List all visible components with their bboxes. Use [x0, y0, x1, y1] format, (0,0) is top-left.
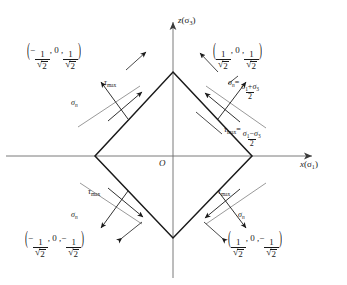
radical-body: 2 — [41, 61, 48, 71]
radical-body: 2 — [250, 61, 257, 71]
axis-label-z: z(σ3) — [178, 16, 195, 26]
coord-label-bottom-left: (− 1 √2 , 0 ,− 1 √2 ) — [25, 234, 84, 259]
coord-x-den: √2 — [35, 59, 50, 71]
coord-label-top-left: (− 1 √2 , 0 , 1 √2 ) — [27, 46, 81, 71]
tau-subscript: max — [227, 129, 236, 135]
coord-x-den: √2 — [33, 247, 48, 259]
radical-body: 2 — [270, 249, 277, 259]
coord-label-bottom-right: ( 1 √2 , 0 ,− 1 √2 ) — [228, 234, 282, 259]
coord-z-den: √2 — [66, 247, 81, 259]
sigma-n-denominator: 2 — [246, 92, 254, 101]
paren-close: ) — [81, 230, 84, 248]
sigma-subscript: n — [242, 214, 245, 220]
tau-max-denominator: 2 — [248, 139, 256, 148]
coord-x-fraction: 1 √2 — [231, 238, 246, 259]
coord-z-den: √2 — [264, 247, 279, 259]
coord-x-num: 1 — [234, 238, 243, 247]
plane-marker-lower-right — [205, 183, 266, 228]
radical-z: √2 — [68, 248, 79, 259]
coord-separator: , 0 , — [231, 45, 245, 55]
coord-x-num: 1 — [36, 238, 45, 247]
coord-x-num: 1 — [219, 50, 228, 59]
axis-label-x-open: (σ — [304, 159, 312, 169]
coord-z-den: √2 — [63, 59, 78, 71]
sigma-n-fraction: σ1+σ3 2 — [239, 83, 261, 101]
leader-lines — [122, 52, 222, 238]
coord-z-num: 1 — [69, 238, 78, 247]
origin-label: O — [159, 159, 166, 168]
paren-close: ) — [78, 42, 81, 60]
paren-open: ( — [27, 42, 30, 60]
sigma-n-label-upper-left: σn — [71, 99, 78, 108]
tau-subscript: max — [107, 82, 116, 88]
paren-open: ( — [25, 230, 28, 248]
radical-z: √2 — [246, 60, 257, 71]
coord-x-fraction: 1 √2 — [35, 50, 50, 71]
tau-max-numerator: σ1−σ3 — [241, 130, 263, 139]
sigma-3-sub: 3 — [256, 85, 259, 91]
coord-x-fraction: 1 √2 — [33, 238, 48, 259]
axis-label-x-close: ) — [315, 159, 318, 169]
coord-separator: , 0 , — [50, 45, 64, 55]
radical-body: 2 — [73, 249, 80, 259]
tau-max-fraction: σ1−σ3 2 — [241, 130, 263, 148]
coord-z-den: √2 — [244, 59, 259, 71]
coord-z-fraction: 1 √2 — [244, 50, 259, 71]
tau-max-label-upper-left: τmax — [104, 79, 116, 88]
paren-open: ( — [228, 230, 231, 248]
coord-label-top-right: ( 1 √2 , 0 , 1 √2 ) — [213, 46, 262, 71]
radical-x: √2 — [218, 60, 229, 71]
coord-z-num: 1 — [247, 50, 256, 59]
coord-x-fraction: 1 √2 — [216, 50, 231, 71]
radical-x: √2 — [35, 248, 46, 259]
tau-max-formula: τmax= σ1−σ3 2 — [224, 126, 263, 148]
tau-max-label-lower-left: τmax — [88, 188, 100, 197]
sigma-subscript: n — [75, 214, 78, 220]
coord-z-num: 1 — [267, 238, 276, 247]
coord-separator: , 0 , — [246, 233, 260, 243]
tau-max-label-lower-right: τmax — [218, 188, 230, 197]
sigma-n-label-upper-right-lhs: σn= σ1+σ3 2 — [228, 79, 261, 101]
coord-z-fraction: 1 √2 — [66, 238, 81, 259]
radical-body: 2 — [237, 249, 244, 259]
sigma-subscript: n — [75, 102, 78, 108]
tau-subscript: max — [91, 191, 100, 197]
radical-body: 2 — [69, 61, 76, 71]
coord-x-num: 1 — [38, 50, 47, 59]
coord-x-den: √2 — [231, 247, 246, 259]
coord-separator: , 0 , — [48, 233, 62, 243]
coord-z-fraction: 1 √2 — [264, 238, 279, 259]
coord-z-fraction: 1 √2 — [63, 50, 78, 71]
radical-body: 2 — [222, 61, 229, 71]
sigma-3-sub: 3 — [258, 132, 261, 138]
stress-diagram: z(σ3) x(σ1) O (− 1 √2 , 0 , 1 √2 ) ( 1 √… — [0, 0, 347, 285]
radical-z: √2 — [266, 248, 277, 259]
axis-z — [170, 22, 177, 278]
sigma-n-label-lower-right: σn — [238, 211, 245, 220]
axis-label-z-close: ) — [192, 15, 195, 25]
sigma-n-label-lower-left: σn — [71, 211, 78, 220]
radical-x: √2 — [37, 60, 48, 71]
radical-x: √2 — [233, 248, 244, 259]
axis-label-x: x(σ1) — [300, 160, 318, 170]
plane-marker-upper-left — [78, 82, 142, 127]
paren-close: ) — [259, 42, 262, 60]
radical-z: √2 — [65, 60, 76, 71]
paren-open: ( — [213, 42, 216, 60]
coord-z-num: 1 — [66, 50, 75, 59]
radical-body: 2 — [39, 249, 46, 259]
coord-x-den: √2 — [216, 59, 231, 71]
paren-close: ) — [279, 230, 282, 248]
tau-subscript: max — [221, 191, 230, 197]
sigma-n-numerator: σ1+σ3 — [239, 83, 261, 92]
